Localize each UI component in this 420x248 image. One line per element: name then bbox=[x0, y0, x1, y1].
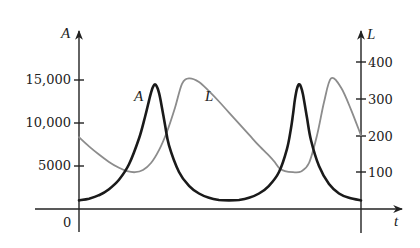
right-tick-100: 100 bbox=[368, 165, 393, 180]
left-tick-15000: 15,000 bbox=[26, 72, 72, 87]
right-axis-label: L bbox=[366, 26, 375, 42]
right-tick-200: 200 bbox=[368, 129, 393, 144]
series-L-label: L bbox=[204, 88, 213, 104]
predator-prey-chart: A L t 0 15,000 10,000 5000 400 300 200 1… bbox=[0, 0, 420, 248]
left-axis-label: A bbox=[60, 25, 71, 41]
left-ticks: 15,000 10,000 5000 bbox=[26, 72, 85, 173]
origin-label: 0 bbox=[63, 215, 71, 230]
left-tick-5000: 5000 bbox=[38, 158, 71, 173]
series-L-line bbox=[79, 78, 361, 173]
x-axis-label: t bbox=[394, 213, 399, 229]
series-A-label: A bbox=[133, 88, 144, 104]
left-tick-10000: 10,000 bbox=[26, 115, 72, 130]
right-tick-300: 300 bbox=[368, 92, 393, 107]
right-tick-400: 400 bbox=[368, 55, 393, 70]
